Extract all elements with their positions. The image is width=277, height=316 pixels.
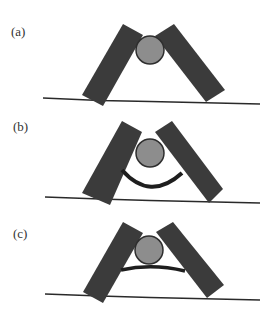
right-bar-b — [155, 121, 223, 203]
right-bar-c — [156, 222, 224, 298]
arc-connector-b — [122, 170, 182, 187]
ground-line-c — [45, 294, 260, 300]
ground-line-a — [43, 98, 260, 104]
left-bar-a — [82, 24, 143, 106]
panel-c — [45, 222, 260, 303]
rod-connector-c — [121, 267, 185, 271]
ground-line-b — [45, 197, 260, 203]
ball-c — [135, 236, 163, 264]
ball-a — [136, 36, 164, 64]
ball-b — [136, 139, 164, 167]
panel-a — [43, 24, 260, 106]
panel-b — [45, 121, 260, 205]
left-bar-b — [82, 121, 142, 205]
right-bar-a — [155, 24, 225, 102]
diagram-canvas — [0, 0, 277, 316]
left-bar-c — [83, 222, 143, 303]
